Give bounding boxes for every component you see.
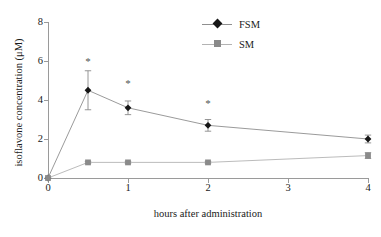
series-sm bbox=[45, 153, 371, 181]
y-tick-label: 2 bbox=[38, 134, 43, 145]
diamond-marker-icon bbox=[85, 87, 92, 94]
chart-figure: isoflavone concentration (μM) hours afte… bbox=[0, 0, 381, 237]
x-tick-label: 4 bbox=[365, 183, 370, 194]
y-tick-label: 6 bbox=[38, 56, 43, 67]
diamond-marker-icon bbox=[213, 19, 223, 29]
legend-label-sm: SM bbox=[239, 39, 254, 50]
x-tick-label: 0 bbox=[45, 183, 50, 194]
y-tick-label: 0 bbox=[38, 173, 43, 184]
legend-item-fsm[interactable]: FSM bbox=[202, 14, 260, 34]
x-tick-label: 1 bbox=[125, 183, 130, 194]
significance-asterisk: * bbox=[125, 78, 131, 89]
legend: FSM SM bbox=[202, 14, 260, 54]
significance-asterisk: * bbox=[85, 56, 91, 67]
diamond-marker-icon bbox=[125, 104, 132, 111]
square-marker-icon bbox=[365, 153, 371, 159]
square-marker-icon bbox=[85, 160, 91, 166]
legend-item-sm[interactable]: SM bbox=[202, 34, 260, 54]
series-line bbox=[48, 156, 368, 178]
legend-swatch-fsm bbox=[202, 18, 232, 30]
square-marker-icon bbox=[205, 160, 211, 166]
diamond-marker-icon bbox=[365, 136, 372, 143]
y-tick-label: 4 bbox=[38, 95, 43, 106]
diamond-marker-icon bbox=[205, 122, 212, 129]
square-marker-icon bbox=[214, 40, 221, 47]
y-tick-label: 8 bbox=[38, 17, 43, 28]
square-marker-icon bbox=[45, 175, 51, 181]
x-tick-label: 3 bbox=[285, 183, 290, 194]
x-axis-title: hours after administration bbox=[48, 208, 368, 219]
x-tick-label: 2 bbox=[205, 183, 210, 194]
square-marker-icon bbox=[125, 160, 131, 166]
legend-label-fsm: FSM bbox=[239, 19, 260, 30]
significance-asterisk: * bbox=[205, 97, 211, 108]
legend-swatch-sm bbox=[202, 38, 232, 50]
y-axis-title: isoflavone concentration (μM) bbox=[13, 13, 24, 193]
